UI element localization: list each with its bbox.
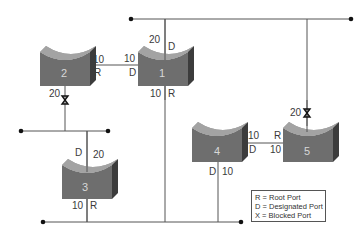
s1-left-cost: 10 (124, 54, 135, 64)
s3-bottom-role: R (90, 201, 97, 211)
legend-root-port: R = Root Port (255, 193, 322, 202)
switch-5-label: 5 (304, 146, 310, 157)
s1-top-role: D (168, 42, 175, 52)
switch-1 (138, 46, 194, 86)
switch-1-label: 1 (159, 68, 165, 79)
s3-top-role: D (75, 148, 82, 158)
switch-2 (40, 46, 96, 86)
s4-right-role: D (249, 145, 256, 155)
s2-right-cost: 10 (93, 55, 104, 65)
legend-blocked-port: X = Blocked Port (255, 211, 322, 220)
s5-left-cost: 10 (270, 145, 281, 155)
lan-segment-top (129, 17, 354, 22)
s3-bottom-cost: 10 (72, 201, 83, 211)
s1-left-role: D (129, 68, 136, 78)
s1-top-cost: 20 (149, 35, 160, 45)
lan-segment-bottom (41, 220, 244, 225)
stp-diagram: 2 1 3 4 5 20 D 10 D 10 R 10 R 20 D 20 10… (0, 0, 364, 234)
legend-designated-port: D = Designated Port (255, 202, 322, 211)
s4-right-cost: 10 (248, 131, 259, 141)
s1-bottom-role: R (168, 89, 175, 99)
s2-bottom-cost: 20 (49, 89, 60, 99)
s1-bottom-cost: 10 (150, 89, 161, 99)
switch-2-label: 2 (61, 68, 67, 79)
legend-box: R = Root Port D = Designated Port X = Bl… (251, 190, 326, 222)
s2-right-role: R (94, 68, 101, 78)
s5-top-cost: 20 (290, 108, 301, 118)
switch-3 (62, 159, 118, 199)
s4-bottom-role: D (209, 167, 216, 177)
s4-bottom-cost: 10 (222, 167, 233, 177)
s5-left-role: R (274, 131, 281, 141)
s3-top-cost: 20 (93, 150, 104, 160)
switch-5 (283, 122, 339, 162)
switch-3-label: 3 (82, 182, 88, 193)
switch-4-label: 4 (214, 146, 220, 157)
